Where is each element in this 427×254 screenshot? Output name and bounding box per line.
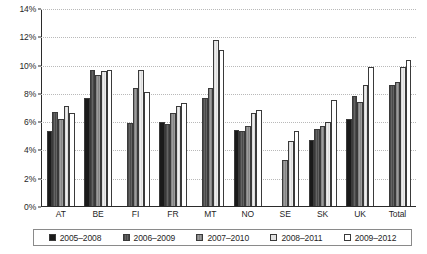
legend-item: 2006–2009: [123, 233, 176, 243]
x-axis-label: FI: [117, 209, 154, 219]
x-axis-label: SK: [304, 209, 341, 219]
bar-group: [379, 9, 416, 206]
chart-legend: 2005–20082006–20092007–20102008–20112009…: [33, 229, 412, 246]
bar-groups: [42, 9, 416, 206]
y-axis-tick-mark: [38, 65, 41, 66]
legend-item: 2005–2008: [49, 233, 102, 243]
bar: [107, 70, 113, 206]
legend-label: 2009–2012: [355, 233, 397, 243]
x-axis-label: NO: [229, 209, 266, 219]
bar: [331, 100, 337, 206]
x-axis-labels: ATBEFIFRMTNOSESKUKTotal: [42, 209, 416, 219]
bar-group: [229, 9, 266, 206]
bar-chart: 0%2%4%6%8%10%12%14% ATBEFIFRMTNOSESKUKTo…: [0, 0, 427, 254]
y-axis-tick-label: 2%: [24, 174, 36, 184]
y-axis-tick-mark: [38, 122, 41, 123]
bar-group: [266, 9, 303, 206]
x-axis-label: AT: [42, 209, 79, 219]
legend-swatch: [196, 234, 203, 241]
x-axis-label: BE: [79, 209, 116, 219]
bar-group: [79, 9, 116, 206]
legend-label: 2005–2008: [60, 233, 102, 243]
x-axis-label: Total: [379, 209, 416, 219]
x-axis-label: SE: [266, 209, 303, 219]
y-axis-tick-mark: [38, 150, 41, 151]
bar: [144, 92, 150, 206]
bar: [294, 131, 300, 206]
y-axis-tick-label: 8%: [24, 89, 36, 99]
bar-group: [42, 9, 79, 206]
y-axis-tick-mark: [38, 207, 41, 208]
y-axis-tick-mark: [38, 93, 41, 94]
legend-swatch: [270, 234, 277, 241]
bar-group: [192, 9, 229, 206]
legend-label: 2008–2011: [281, 233, 322, 243]
y-axis-tick-label: 0%: [24, 202, 36, 212]
legend-swatch: [344, 234, 351, 241]
bar: [406, 60, 412, 206]
bar: [219, 50, 225, 206]
bar-group: [304, 9, 341, 206]
y-axis-tick-mark: [38, 9, 41, 10]
bar: [256, 110, 262, 206]
x-axis-label: MT: [192, 209, 229, 219]
legend-label: 2006–2009: [134, 233, 176, 243]
legend-swatch: [123, 234, 130, 241]
legend-item: 2008–2011: [270, 233, 322, 243]
plot-area: 0%2%4%6%8%10%12%14%: [41, 9, 416, 207]
y-axis-tick-mark: [38, 37, 41, 38]
legend-item: 2009–2012: [344, 233, 397, 243]
x-axis-label: FR: [154, 209, 191, 219]
bar: [69, 113, 75, 206]
bar-group: [154, 9, 191, 206]
x-axis-label: UK: [341, 209, 378, 219]
y-axis-tick-label: 14%: [20, 4, 36, 14]
y-axis-tick-label: 12%: [20, 32, 36, 42]
legend-swatch: [49, 234, 56, 241]
y-axis-tick-label: 10%: [20, 61, 36, 71]
y-axis-tick-label: 4%: [24, 145, 36, 155]
y-axis-tick-mark: [38, 178, 41, 179]
bar: [181, 103, 187, 206]
legend-item: 2007–2010: [196, 233, 249, 243]
bar-group: [341, 9, 378, 206]
bar: [368, 67, 374, 206]
y-axis-tick-label: 6%: [24, 117, 36, 127]
legend-label: 2007–2010: [207, 233, 249, 243]
bar-group: [117, 9, 154, 206]
